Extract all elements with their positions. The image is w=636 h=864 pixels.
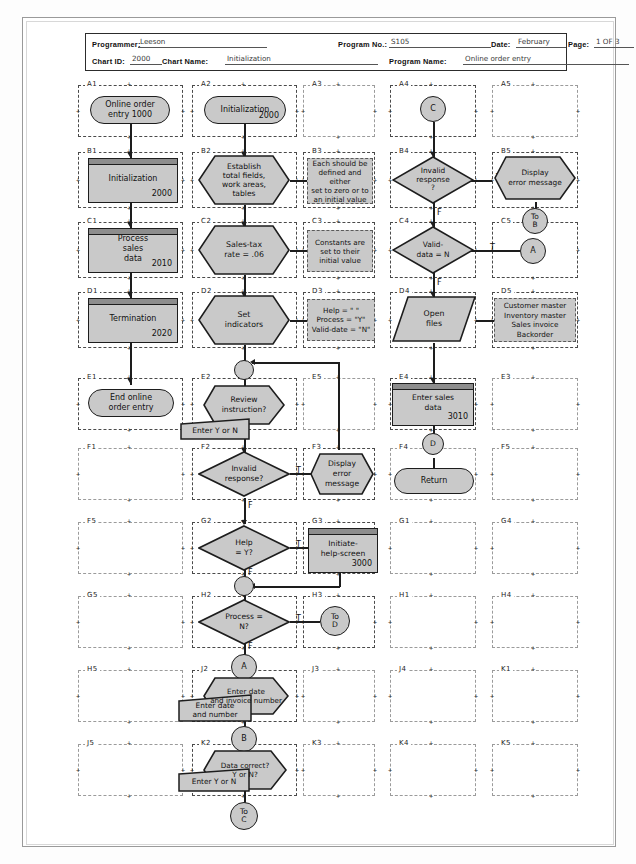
chart-id-value[interactable]: 2000	[130, 54, 162, 65]
shape-C3-label: Constants are set to their initial value	[308, 236, 372, 267]
shape-B3-label: Each should be defined and either set to…	[308, 157, 372, 206]
shape-C5-connector[interactable]: A	[520, 238, 546, 264]
shape-B4-label: Invalid response ?	[392, 167, 474, 193]
line-g3-feedback-h	[252, 586, 340, 588]
branch-label-f2-false: F	[248, 501, 253, 510]
grid-cell-F5: F5++++	[492, 448, 578, 500]
shape-A2-terminator[interactable]: Initialization 2000	[204, 96, 286, 124]
grid-cell-H1: G5++++	[78, 596, 183, 648]
process-header-bar	[89, 229, 177, 235]
branch-label-c4-true: T	[490, 243, 495, 252]
shape-D2-label: Set indicators	[198, 310, 290, 330]
shape-connector-d2-e2[interactable]	[234, 360, 254, 380]
shape-B5-connector-To-B[interactable]: To B	[522, 208, 548, 234]
grid-cell-K5: K5++++	[492, 744, 578, 796]
shape-G3-code: 3000	[352, 559, 372, 569]
shape-B2-preparation[interactable]: Establish total fields, work areas, tabl…	[198, 155, 290, 205]
shape-E4-connector-D[interactable]: D	[422, 433, 444, 455]
shape-A4-connector[interactable]: C	[420, 96, 446, 122]
shape-C4-label: Valid- data = N	[392, 240, 474, 260]
connector-B-label: B	[232, 734, 256, 744]
shape-C2-preparation[interactable]: Sales-tax rate = .06	[198, 225, 290, 275]
programmer-value[interactable]: Leeson	[138, 37, 267, 48]
shape-B5-display[interactable]: Display error message	[494, 156, 576, 200]
grid-cell-G4: G1++++	[390, 522, 476, 574]
shape-D4-label: Open files	[392, 309, 476, 329]
shape-F4-terminator[interactable]: Return	[394, 468, 474, 494]
shape-F3-display[interactable]: Display error message	[310, 453, 374, 495]
grid-cell-J1: H5++++	[78, 670, 183, 722]
grid-cell-F1: F1++++	[78, 448, 183, 500]
line-h2-h3	[290, 621, 320, 623]
connector-A-label: A	[232, 662, 256, 672]
shape-C4-decision[interactable]: Valid- data = N	[392, 226, 474, 274]
grid-cell-G5: G4++++	[492, 522, 578, 574]
shape-connector-g2-h2[interactable]	[234, 576, 254, 596]
date-label: Date:	[491, 40, 510, 49]
shape-A1-terminator[interactable]: Online order entry 1000	[90, 96, 170, 124]
shape-F2-decision[interactable]: Invalid response?	[198, 451, 290, 497]
program-no-label: Program No.:	[338, 40, 387, 49]
grid-cell-G1: F5++++	[78, 522, 183, 574]
line-f3-feedback-v	[338, 362, 340, 450]
line-f2-f3	[290, 473, 312, 475]
shape-G2-label: Help = Y?	[198, 538, 290, 558]
grid-cell-A5: A5++++	[492, 85, 578, 137]
programmer-label: Programmer:	[92, 40, 141, 49]
chart-name-value[interactable]: Initialization	[225, 54, 378, 65]
grid-cell-J3: J3++++	[303, 670, 375, 722]
shape-connector-To-C[interactable]: To C	[230, 802, 258, 830]
shape-E2-manual-input[interactable]: Enter Y or N	[180, 418, 250, 440]
connector-To-C-label: To C	[231, 808, 257, 825]
grid-cell-K1: J5++++	[78, 744, 183, 796]
process-header-bar	[309, 529, 377, 535]
chart-name-label: Chart Name:	[162, 57, 208, 66]
shape-H2-decision[interactable]: Process = N?	[198, 599, 290, 645]
shape-D1-code: 2020	[152, 329, 172, 339]
shape-E1-terminator[interactable]: End online order entry	[88, 389, 174, 417]
shape-E2-input-label: Enter Y or N	[180, 423, 250, 436]
program-name-value[interactable]: Online order entry	[463, 54, 629, 65]
shape-D3-annotation: Help = " " Process = "Y" Valid-date = "N…	[307, 299, 375, 341]
shape-H2-label: Process = N?	[198, 612, 290, 632]
chart-id-label: Chart ID:	[92, 57, 125, 66]
header-row-1: Programmer: Leeson Program No.: S105 Dat…	[86, 35, 566, 53]
shape-G2-decision[interactable]: Help = Y?	[198, 525, 290, 571]
page-value[interactable]: 1 OF 3	[594, 37, 634, 48]
date-value[interactable]: February	[516, 37, 566, 48]
shape-B3-annotation: Each should be defined and either set to…	[307, 158, 373, 204]
grid-cell-J5: K1++++	[492, 670, 578, 722]
shape-H3-label: To D	[321, 613, 349, 630]
line-d4-d5	[476, 320, 494, 322]
branch-label-b4-false: F	[437, 208, 442, 217]
branch-label-c4-false: F	[437, 278, 442, 287]
shape-B4-decision[interactable]: Invalid response ?	[392, 156, 474, 204]
shape-C5-label: A	[521, 246, 545, 256]
process-header-bar	[89, 299, 177, 305]
shape-C1-process[interactable]: Process sales data 2010	[88, 228, 178, 273]
shape-H3-connector[interactable]: To D	[320, 606, 350, 636]
shape-E2-label: Review instruction?	[203, 395, 285, 415]
shape-D4-input-output[interactable]: Open files	[392, 296, 476, 342]
grid-cell-E5: E3++++	[492, 378, 578, 430]
shape-D5-label: Customer master Inventory master Sales i…	[495, 299, 575, 341]
grid-cell-J4: J4++++	[390, 670, 476, 722]
program-no-value[interactable]: S105	[389, 37, 491, 48]
line-f3-feedback-h	[252, 362, 340, 364]
branch-label-g2-false: F	[248, 568, 253, 577]
shape-B5-label: Display error message	[494, 168, 576, 188]
shape-G3-process[interactable]: Initiate- help-screen 3000	[308, 528, 378, 573]
arrow-d1-e1	[127, 378, 133, 383]
shape-E4-process[interactable]: Enter sales data 3010	[392, 383, 474, 426]
shape-D2-preparation[interactable]: Set indicators	[198, 295, 290, 345]
grid-cell-H5: H4++++	[492, 596, 578, 648]
shape-B1-process[interactable]: Initialization 2000	[88, 158, 178, 203]
process-header-bar	[393, 384, 473, 390]
shape-connector-B[interactable]: B	[231, 726, 257, 752]
header-row-2: Chart ID: 2000 Chart Name: Initializatio…	[86, 52, 566, 70]
shape-A1-label: Online order entry 1000	[91, 100, 169, 120]
shape-F4-label: Return	[395, 476, 473, 486]
shape-D1-process[interactable]: Termination 2020	[88, 298, 178, 343]
chart-header: Programmer: Leeson Program No.: S105 Dat…	[85, 33, 567, 71]
shape-J2-manual-input[interactable]: Enter date and number	[178, 694, 252, 722]
